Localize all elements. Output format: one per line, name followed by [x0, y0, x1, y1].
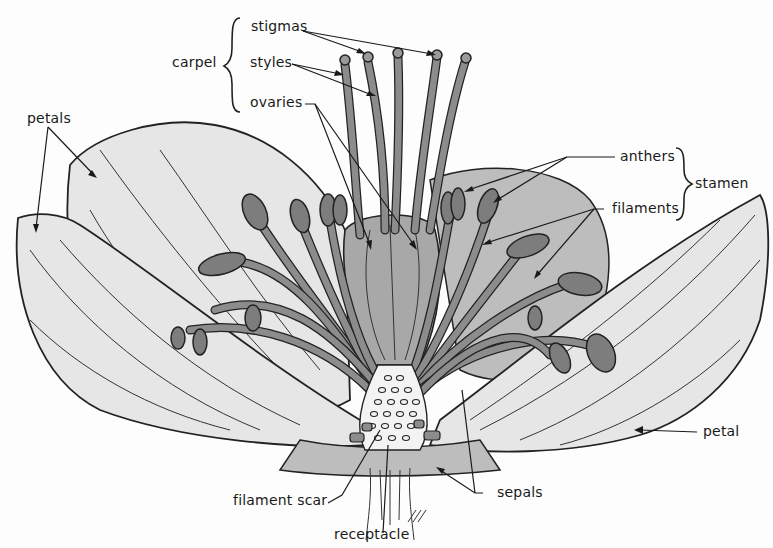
- flower-diagram: .o { stroke: #222; stroke-width: 1.6; fi…: [0, 0, 773, 548]
- label-receptacle: receptacle: [334, 526, 410, 542]
- label-carpel: carpel: [172, 54, 217, 70]
- label-petal: petal: [703, 423, 739, 439]
- flower-illustration: .o { stroke: #222; stroke-width: 1.6; fi…: [0, 0, 773, 548]
- label-sepals: sepals: [497, 484, 543, 500]
- label-styles: styles: [250, 54, 292, 70]
- label-filaments: filaments: [612, 200, 679, 216]
- label-ovaries: ovaries: [250, 94, 302, 110]
- label-stamen: stamen: [695, 175, 749, 191]
- label-anthers: anthers: [620, 148, 675, 164]
- label-filament-scar: filament scar: [233, 492, 327, 508]
- label-petals: petals: [27, 110, 71, 126]
- carpel-bracket: [224, 18, 240, 112]
- label-stigmas: stigmas: [251, 18, 307, 34]
